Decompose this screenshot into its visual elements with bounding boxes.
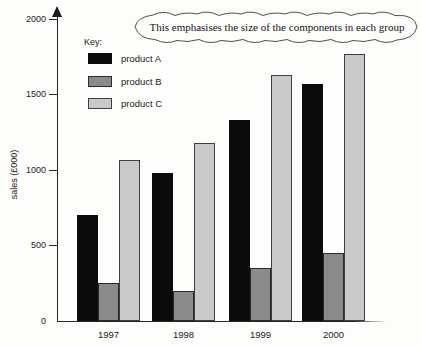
- y-tick-label-1500: 1500: [14, 89, 46, 100]
- y-tick-2000: [49, 19, 57, 20]
- bar-1998-product-B: [173, 291, 194, 321]
- bar-1997-product-B: [98, 283, 119, 321]
- bar-1999-product-C: [271, 75, 292, 321]
- bar-2000-product-C: [344, 54, 365, 321]
- y-tick-1000: [49, 170, 57, 171]
- bar-1998-product-A: [152, 173, 173, 321]
- y-tick-500: [49, 245, 57, 246]
- figure-grouped-bar-chart: This emphasises the size of the componen…: [0, 0, 421, 347]
- bar-1997-product-C: [119, 160, 140, 321]
- y-tick-label-0: 0: [14, 316, 46, 327]
- y-tick-label-500: 500: [14, 240, 46, 251]
- bar-1999-product-A: [229, 120, 250, 321]
- y-tick-1500: [49, 94, 57, 95]
- x-label-1998: 1998: [162, 329, 206, 341]
- x-label-1997: 1997: [87, 329, 131, 341]
- bar-1998-product-C: [194, 143, 215, 321]
- bar-2000-product-B: [323, 253, 344, 321]
- x-label-1999: 1999: [239, 329, 283, 341]
- x-label-2000: 2000: [312, 329, 356, 341]
- bar-1999-product-B: [250, 268, 271, 321]
- bar-2000-product-A: [302, 84, 323, 321]
- y-tick-label-2000: 2000: [14, 14, 46, 25]
- y-tick-label-1000: 1000: [14, 165, 46, 176]
- bar-1997-product-A: [77, 215, 98, 321]
- plot-area: 05001000150020001997199819992000: [0, 0, 421, 347]
